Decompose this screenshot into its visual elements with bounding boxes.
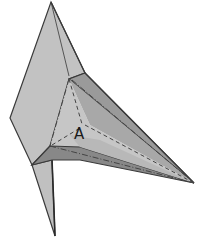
point-a-label: A <box>74 127 84 142</box>
origami-diagram <box>0 0 199 246</box>
bottom-flap <box>32 160 55 236</box>
